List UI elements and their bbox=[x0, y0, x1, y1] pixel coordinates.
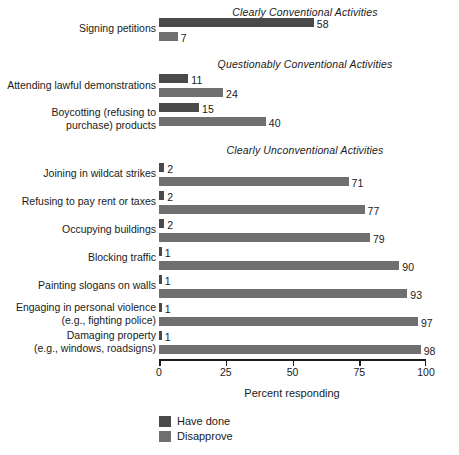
bar-have-done bbox=[159, 275, 162, 284]
x-axis-tick-label: 25 bbox=[220, 366, 232, 378]
x-axis-title: Percent responding bbox=[244, 387, 339, 399]
category-label-wrapper: Attending lawful demonstrations bbox=[0, 79, 156, 92]
bar-disapprove bbox=[159, 205, 365, 214]
bar-disapprove bbox=[159, 32, 178, 41]
legend-color-swatch bbox=[159, 416, 171, 427]
legend-color-swatch bbox=[159, 431, 171, 442]
x-axis-tick bbox=[425, 361, 427, 366]
category-label: Attending lawful demonstrations bbox=[0, 79, 156, 92]
legend-item-label: Disapprove bbox=[177, 430, 233, 442]
bar-have-done bbox=[159, 247, 162, 256]
category-label: Boycotting (refusing to purchase) produc… bbox=[0, 106, 156, 131]
bar-disapprove bbox=[159, 177, 349, 186]
category-label: Blocking traffic bbox=[0, 251, 156, 264]
category-label-wrapper: Damaging property (e.g., windows, roadsi… bbox=[0, 329, 156, 354]
bar-value-have-done: 1 bbox=[165, 248, 171, 258]
bar-disapprove bbox=[159, 117, 266, 126]
bar-value-have-done: 58 bbox=[317, 19, 329, 29]
category-label: Damaging property (e.g., windows, roadsi… bbox=[0, 329, 156, 354]
x-axis-tick-label: 75 bbox=[353, 366, 365, 378]
category-label-wrapper: Refusing to pay rent or taxes bbox=[0, 195, 156, 208]
section-heading: Questionably Conventional Activities bbox=[218, 58, 393, 70]
bar-value-disapprove: 7 bbox=[181, 33, 187, 43]
bar-have-done bbox=[159, 331, 162, 340]
bar-value-have-done: 2 bbox=[167, 192, 173, 202]
bar-value-disapprove: 40 bbox=[269, 118, 281, 128]
category-label: Refusing to pay rent or taxes bbox=[0, 195, 156, 208]
bar-value-have-done: 15 bbox=[202, 104, 214, 114]
x-axis-tick bbox=[226, 361, 228, 366]
bar-value-disapprove: 71 bbox=[352, 178, 364, 188]
category-label: Joining in wildcat strikes bbox=[0, 167, 156, 180]
bar-have-done bbox=[159, 219, 164, 228]
bar-value-have-done: 2 bbox=[167, 220, 173, 230]
bar-chart: Clearly Conventional ActivitiesSigning p… bbox=[0, 0, 459, 455]
section-heading: Clearly Unconventional Activities bbox=[227, 144, 384, 156]
bar-value-disapprove: 98 bbox=[424, 346, 436, 356]
bar-value-disapprove: 24 bbox=[226, 89, 238, 99]
bar-disapprove bbox=[159, 289, 407, 298]
x-axis-tick bbox=[293, 361, 295, 366]
bar-value-disapprove: 97 bbox=[421, 318, 433, 328]
bar-value-disapprove: 93 bbox=[410, 290, 422, 300]
bar-have-done bbox=[159, 163, 164, 172]
bar-value-disapprove: 79 bbox=[373, 234, 385, 244]
bar-disapprove bbox=[159, 345, 421, 354]
bar-disapprove bbox=[159, 88, 223, 97]
x-axis-tick bbox=[159, 361, 161, 366]
x-axis-tick bbox=[359, 361, 361, 366]
category-label: Painting slogans on walls bbox=[0, 279, 156, 292]
bar-value-have-done: 1 bbox=[165, 332, 171, 342]
category-label-wrapper: Signing petitions bbox=[0, 22, 156, 35]
bar-value-disapprove: 90 bbox=[402, 262, 414, 272]
bar-have-done bbox=[159, 18, 314, 27]
legend-item[interactable]: Have done bbox=[159, 415, 279, 427]
bar-value-have-done: 1 bbox=[165, 276, 171, 286]
category-label: Signing petitions bbox=[0, 22, 156, 35]
legend-item[interactable]: Disapprove bbox=[159, 430, 279, 442]
legend-item-label: Have done bbox=[177, 415, 230, 427]
bar-have-done bbox=[159, 303, 162, 312]
category-label: Engaging in personal violence (e.g., fig… bbox=[0, 301, 156, 326]
category-label-wrapper: Engaging in personal violence (e.g., fig… bbox=[0, 301, 156, 326]
bar-value-have-done: 2 bbox=[167, 164, 173, 174]
bar-disapprove bbox=[159, 317, 418, 326]
bar-value-have-done: 1 bbox=[165, 304, 171, 314]
category-label-wrapper: Blocking traffic bbox=[0, 251, 156, 264]
x-axis-tick-label: 100 bbox=[417, 366, 435, 378]
x-axis-tick-label: 50 bbox=[287, 366, 299, 378]
category-label-wrapper: Joining in wildcat strikes bbox=[0, 167, 156, 180]
bar-value-have-done: 11 bbox=[191, 75, 202, 85]
bar-disapprove bbox=[159, 261, 399, 270]
category-label: Occupying buildings bbox=[0, 223, 156, 236]
category-label-wrapper: Occupying buildings bbox=[0, 223, 156, 236]
bar-have-done bbox=[159, 191, 164, 200]
bar-have-done bbox=[159, 74, 188, 83]
section-heading: Clearly Conventional Activities bbox=[232, 6, 378, 18]
bar-value-disapprove: 77 bbox=[368, 206, 380, 216]
category-label-wrapper: Painting slogans on walls bbox=[0, 279, 156, 292]
bar-disapprove bbox=[159, 233, 370, 242]
bar-have-done bbox=[159, 103, 199, 112]
category-label-wrapper: Boycotting (refusing to purchase) produc… bbox=[0, 106, 156, 131]
x-axis-tick-label: 0 bbox=[156, 366, 162, 378]
